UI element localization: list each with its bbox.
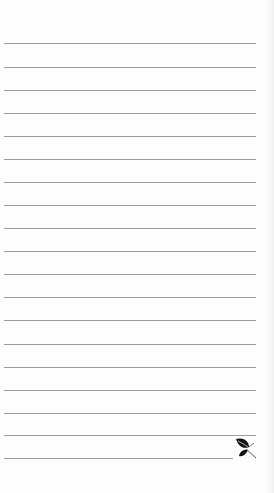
ruled-line (4, 182, 256, 183)
ruled-line (4, 320, 256, 321)
ruled-line (4, 390, 256, 391)
ruled-line (4, 297, 256, 298)
ruled-line (4, 344, 256, 345)
ruled-line (4, 67, 256, 68)
ruled-line (4, 159, 256, 160)
ruled-line (4, 413, 256, 414)
leaf-icon-svg (234, 436, 258, 460)
page-edge-shadow (266, 0, 274, 493)
ruled-line (4, 113, 256, 114)
ruled-line (4, 136, 256, 137)
leaf-icon (234, 436, 258, 460)
ruled-line (4, 251, 256, 252)
ruled-line (4, 205, 256, 206)
ruled-line (4, 90, 256, 91)
ruled-line (4, 367, 256, 368)
notepad-page (0, 0, 274, 493)
ruled-line (4, 458, 233, 459)
ruled-line (4, 43, 256, 44)
ruled-line (4, 274, 256, 275)
ruled-line (4, 435, 256, 436)
ruled-line (4, 228, 256, 229)
